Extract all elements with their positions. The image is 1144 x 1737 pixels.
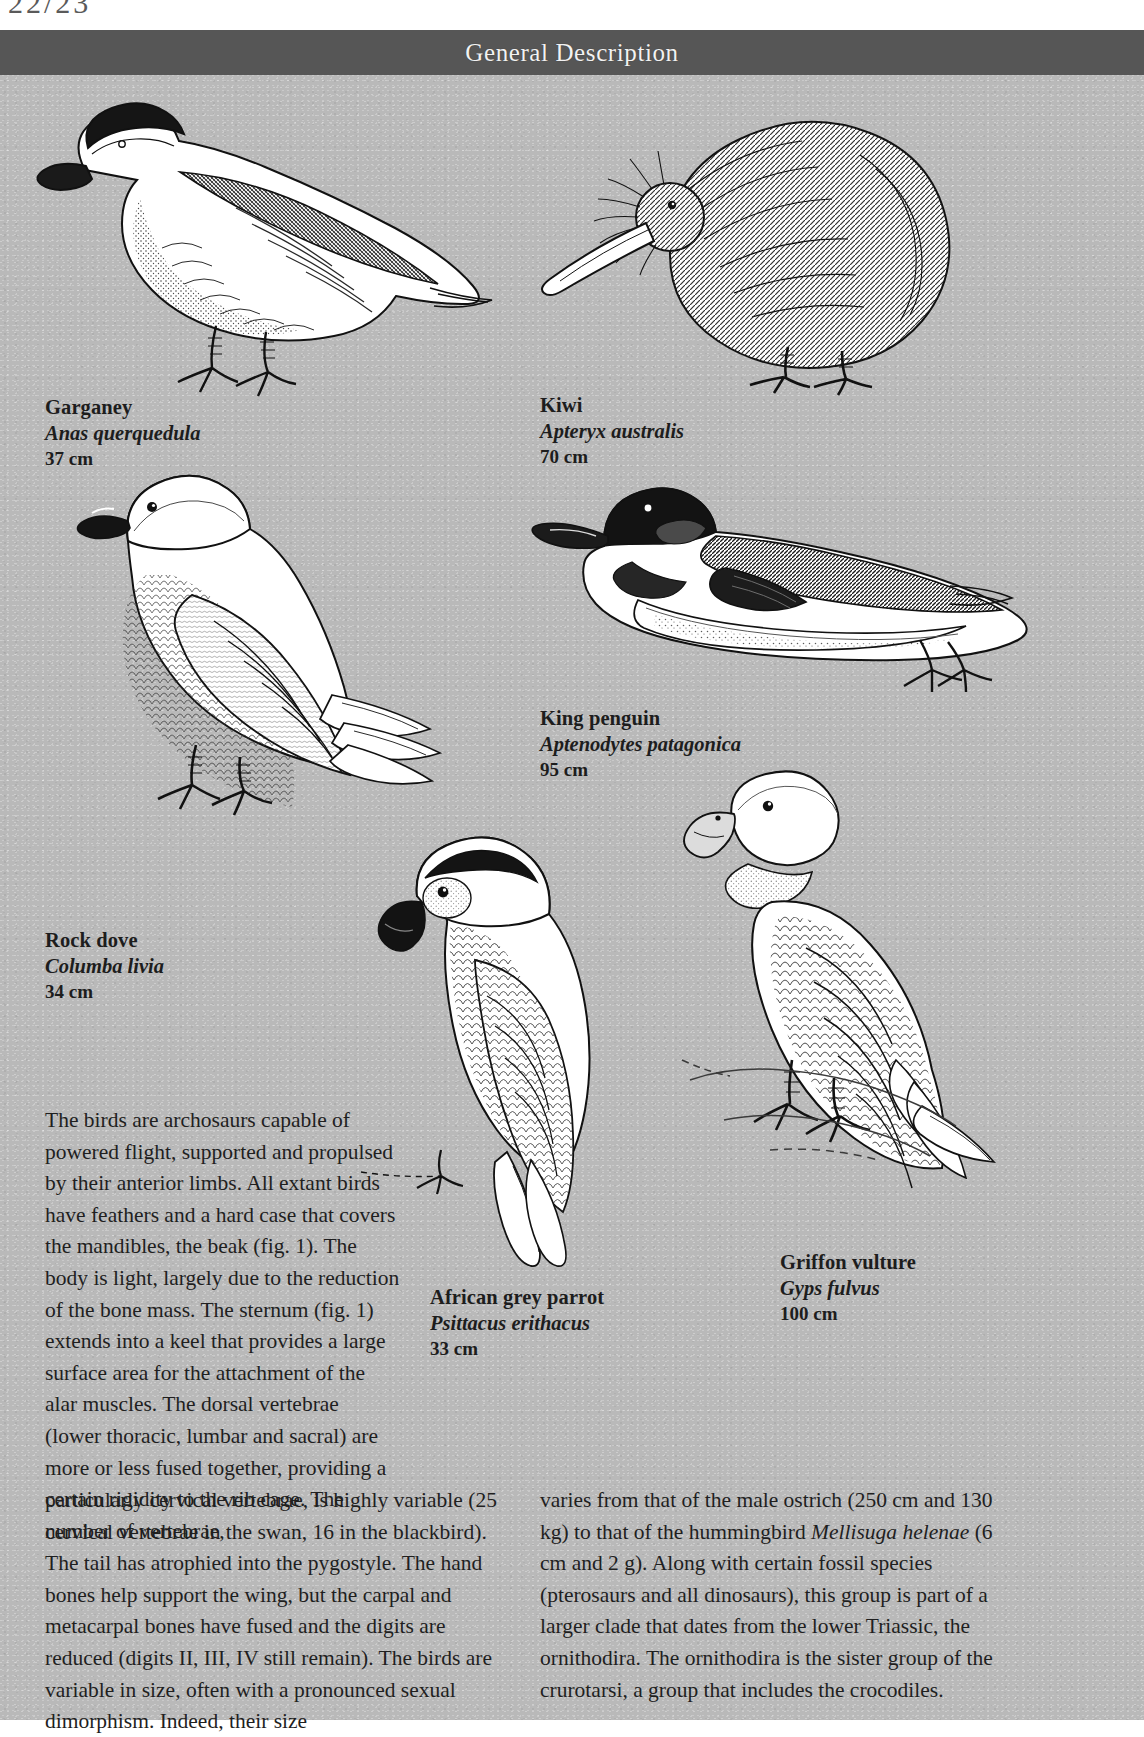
caption-latin-name: Aptenodytes patagonica [540,732,741,758]
african-grey-parrot-illustration [355,820,655,1270]
page-number-fragment: 22/23 [8,0,91,20]
caption-common-name: King penguin [540,706,741,732]
caption-common-name: Griffon vulture [780,1250,916,1276]
african-grey-parrot-caption: African grey parrot Psittacus erithacus … [430,1285,604,1361]
caption-common-name: African grey parrot [430,1285,604,1311]
caption-size: 70 cm [540,445,684,469]
page-sheet: General Description [0,30,1144,1720]
griffon-vulture-caption: Griffon vulture Gyps fulvus 100 cm [780,1250,916,1326]
griffon-vulture-illustration [660,760,1020,1180]
caption-size: 37 cm [45,447,201,471]
page-top-margin: 22/23 [0,0,1144,30]
body-paragraph-continued: particularly cervical vertebrae, is high… [45,1485,515,1737]
garganey-caption: Garganey Anas querquedula 37 cm [45,395,201,471]
caption-common-name: Rock dove [45,928,164,954]
rock-dove-illustration [32,445,452,825]
garganey-illustration [30,80,510,380]
body-bottom-right-column: varies from that of the male ostrich (25… [540,1485,1020,1706]
body-paragraph-end: varies from that of the male ostrich (25… [540,1485,1020,1706]
body-paragraph-intro: The birds are archosaurs capable of powe… [45,1105,400,1547]
caption-common-name: Kiwi [540,393,684,419]
text-run-2: (6 cm and 2 g). Along with certain fossi… [540,1520,993,1702]
king-penguin-caption: King penguin Aptenodytes patagonica 95 c… [540,706,741,782]
kiwi-illustration [520,75,1000,385]
caption-latin-name: Psittacus erithacus [430,1311,604,1337]
body-narrow-column: The birds are archosaurs capable of powe… [45,1105,400,1547]
species-name-italic: Mellisuga helenae [811,1520,969,1544]
caption-size: 33 cm [430,1337,604,1361]
kiwi-caption: Kiwi Apteryx australis 70 cm [540,393,684,469]
page-title: General Description [465,39,678,67]
caption-size: 95 cm [540,758,741,782]
caption-latin-name: Columba livia [45,954,164,980]
rock-dove-caption: Rock dove Columba livia 34 cm [45,928,164,1004]
section-header-bar: General Description [0,30,1144,75]
caption-latin-name: Gyps fulvus [780,1276,916,1302]
caption-size: 100 cm [780,1302,916,1326]
king-penguin-illustration [520,450,1020,715]
body-bottom-left-column: particularly cervical vertebrae, is high… [45,1485,515,1737]
caption-size: 34 cm [45,980,164,1004]
caption-latin-name: Anas querquedula [45,421,201,447]
caption-latin-name: Apteryx australis [540,419,684,445]
caption-common-name: Garganey [45,395,201,421]
